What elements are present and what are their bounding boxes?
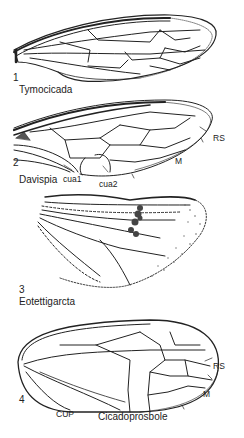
vein-label-cua1: cua1	[63, 175, 81, 184]
wing-davispia	[14, 100, 212, 178]
vein-label-cup: CUP	[56, 410, 74, 419]
wing-cicadoprosbole	[18, 320, 218, 412]
vein-label-cua2: cua2	[99, 180, 117, 189]
vein-label-rs-4: RS	[213, 362, 225, 371]
panel-number-2: 2	[13, 158, 19, 168]
panel-number-3: 3	[19, 285, 25, 295]
genus-label-tymocicada: Tymocicada	[19, 85, 72, 95]
panel-number-1: 1	[13, 73, 19, 83]
genus-label-cicadoprosbole: Cicadoprosbole	[98, 412, 168, 422]
panel-number-4: 4	[19, 395, 25, 405]
wing-illustrations	[0, 0, 244, 438]
vein-label-m: M	[175, 157, 182, 166]
wing-tymocicada	[14, 15, 216, 82]
vein-label-rs: RS	[213, 134, 225, 143]
wing-eotettigarcta	[38, 195, 206, 288]
genus-label-davispia: Davispia	[19, 175, 57, 185]
genus-label-eotettigarcta: Eotettigarcta	[19, 297, 75, 307]
vein-label-m-4: M	[203, 390, 210, 399]
